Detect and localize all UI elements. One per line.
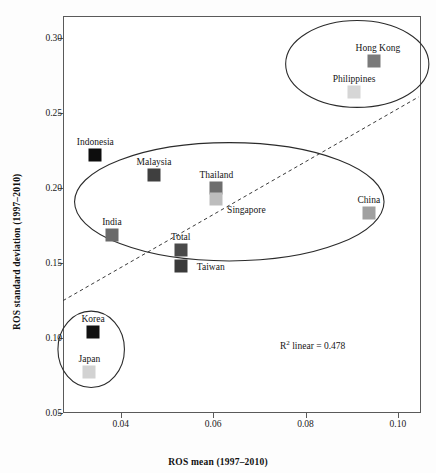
data-point-label: Philippines [333, 74, 376, 84]
data-point-label: Total [171, 232, 190, 242]
x-tick-label: 0.10 [390, 419, 407, 429]
data-point-label: Thailand [199, 170, 233, 180]
data-point-marker[interactable] [362, 207, 375, 220]
data-point-label: Singapore [227, 205, 266, 215]
y-tick-label: 0.05 [22, 408, 62, 418]
x-tick-mark [213, 413, 214, 418]
data-point-marker[interactable] [367, 54, 380, 67]
data-point-marker[interactable] [89, 148, 102, 161]
data-point-marker[interactable] [148, 168, 161, 181]
y-axis-title: ROS standard deviation (1997–2010) [12, 174, 22, 330]
data-point-label: Korea [81, 314, 104, 324]
data-point-label: Japan [79, 354, 101, 364]
data-point-marker[interactable] [348, 86, 361, 99]
data-point-label: Indonesia [77, 137, 114, 147]
x-tick-label: 0.04 [112, 419, 129, 429]
data-point-marker[interactable] [105, 228, 118, 241]
data-point-label: Hong Kong [356, 43, 401, 53]
data-point-marker[interactable] [87, 326, 100, 339]
y-tick-label: 0.25 [22, 108, 62, 118]
data-point-marker[interactable] [83, 365, 96, 378]
r2-suffix: linear = 0.478 [290, 341, 345, 351]
y-tick-label: 0.30 [22, 33, 62, 43]
scatter-plot-figure: 0.050.100.150.200.250.300.040.060.080.10… [0, 0, 436, 473]
data-point-label: India [102, 217, 122, 227]
data-point-label: Malaysia [137, 157, 172, 167]
data-point-marker[interactable] [174, 260, 187, 273]
data-point-label: Taiwan [197, 262, 225, 272]
y-tick-label: 0.20 [22, 183, 62, 193]
x-axis-title: ROS mean (1997–2010) [0, 457, 436, 467]
x-tick-label: 0.06 [205, 419, 222, 429]
r-squared-annotation: R2 linear = 0.478 [280, 339, 345, 351]
y-tick-label: 0.15 [22, 258, 62, 268]
data-point-marker[interactable] [174, 243, 187, 256]
x-tick-mark [398, 413, 399, 418]
y-tick-label: 0.10 [22, 333, 62, 343]
x-tick-mark [306, 413, 307, 418]
x-tick-mark [121, 413, 122, 418]
data-point-label: China [357, 195, 380, 205]
x-tick-label: 0.08 [297, 419, 314, 429]
data-point-marker[interactable] [210, 192, 223, 205]
